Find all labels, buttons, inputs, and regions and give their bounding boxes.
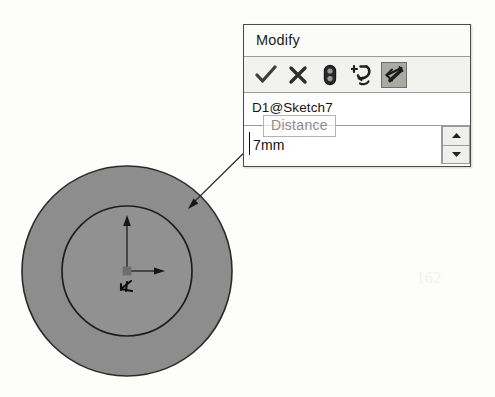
dialog-titlebar[interactable]: Modify: [244, 25, 470, 57]
distance-tooltip: Distance: [263, 115, 336, 137]
dialog-title: Modify: [256, 32, 300, 48]
reverse-direction-button[interactable]: [349, 62, 375, 88]
accept-button[interactable]: [253, 62, 279, 88]
stepper-decrement-button[interactable]: [442, 146, 470, 165]
mark-for-drawing-button[interactable]: [381, 62, 407, 88]
dimension-value-text: 7mm: [250, 137, 285, 153]
text-caret: [249, 132, 250, 155]
check-icon: [255, 65, 277, 85]
rebuild-icon: [322, 64, 338, 86]
modify-dimension-dialog[interactable]: Modify: [243, 24, 471, 167]
mark-for-drawing-icon: [384, 65, 404, 85]
value-stepper: [442, 126, 470, 164]
dimension-name-value: D1@Sketch7: [252, 100, 333, 115]
reverse-direction-icon: [351, 64, 373, 86]
dialog-toolbar: [244, 57, 470, 93]
stepper-increment-button[interactable]: [442, 126, 470, 146]
close-x-icon: [288, 65, 308, 85]
caret-down-icon: [451, 151, 462, 158]
rebuild-button[interactable]: [317, 62, 343, 88]
caret-up-icon: [451, 132, 462, 139]
cancel-button[interactable]: [285, 62, 311, 88]
